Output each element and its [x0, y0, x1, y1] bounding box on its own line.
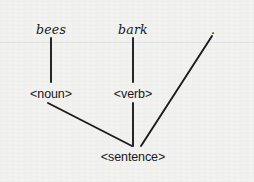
node-bees: bees	[36, 22, 66, 37]
node-sentence: <sentence>	[101, 150, 165, 164]
edge-noun-sentence	[48, 103, 132, 146]
node-noun: <noun>	[30, 87, 72, 101]
parse-tree-diagram: bees bark . <noun> <verb> <sentence>	[0, 0, 254, 182]
node-bark: bark	[118, 22, 148, 37]
node-period: .	[211, 22, 215, 37]
node-verb: <verb>	[114, 87, 152, 101]
